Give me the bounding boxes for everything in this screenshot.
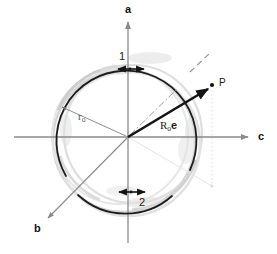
point-P-label: P bbox=[219, 78, 226, 88]
figure-canvas: a c b 1 2 P ro Roe bbox=[0, 0, 277, 254]
r0-label: ro bbox=[78, 111, 85, 123]
a-axis-label: a bbox=[125, 4, 131, 15]
short-dashed-segment bbox=[190, 53, 210, 72]
c-axis-label: c bbox=[258, 131, 264, 142]
marker-1-label: 1 bbox=[119, 51, 125, 62]
r0-subscript: o bbox=[82, 115, 86, 124]
R0e-unit-vector: e bbox=[171, 119, 177, 131]
b-axis-line bbox=[48, 137, 128, 218]
b-axis-label: b bbox=[34, 223, 41, 234]
marker-2-label: 2 bbox=[139, 197, 145, 208]
R0e-label: Roe bbox=[160, 120, 177, 132]
short-dashed-segment-group bbox=[190, 53, 210, 72]
point-P-marker bbox=[210, 83, 214, 87]
diagram-vector-layer bbox=[0, 0, 277, 254]
